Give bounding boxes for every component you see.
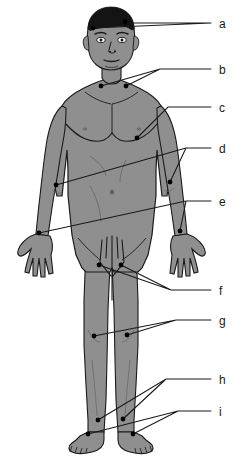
marker-g-right	[125, 333, 130, 338]
marker-d-left	[54, 183, 59, 188]
label-e: e	[219, 196, 226, 208]
marker-i-left	[86, 432, 91, 437]
label-f: f	[219, 285, 222, 297]
leader-line-h	[98, 379, 211, 420]
marker-h-right	[121, 417, 126, 422]
right-hand-shape	[170, 234, 205, 277]
anatomical-figure: a b c d e f g h i	[0, 0, 242, 467]
label-b: b	[219, 64, 226, 76]
label-a: a	[219, 18, 226, 30]
marker-c	[135, 136, 140, 141]
label-i: i	[219, 406, 222, 418]
marker-a-left	[91, 26, 96, 31]
label-d: d	[219, 143, 226, 155]
marker-d-right	[168, 180, 173, 185]
leader-line-g	[94, 320, 211, 336]
body-silhouette	[18, 7, 206, 454]
marker-a-right	[123, 20, 128, 25]
label-h: h	[219, 374, 226, 386]
marker-g-left	[92, 334, 97, 339]
left-ear-shape	[83, 36, 89, 50]
left-pupil	[100, 39, 103, 42]
marker-h-left	[96, 418, 101, 423]
marker-f-right	[119, 263, 124, 268]
label-g: g	[219, 315, 226, 327]
marker-e-left	[37, 231, 42, 236]
left-leg-shape	[84, 246, 110, 432]
right-pupil	[121, 39, 124, 42]
body-illustration	[0, 0, 242, 467]
marker-i-right	[131, 432, 136, 437]
navel	[110, 189, 114, 194]
label-c: c	[219, 102, 225, 114]
right-ear-shape	[133, 36, 139, 50]
left-hand-shape	[18, 234, 53, 277]
marker-f-left	[97, 263, 102, 268]
marker-b-right	[124, 84, 129, 89]
right-nipple	[137, 127, 142, 130]
marker-e-right	[178, 229, 183, 234]
left-nipple	[83, 127, 88, 130]
marker-b-left	[99, 84, 104, 89]
